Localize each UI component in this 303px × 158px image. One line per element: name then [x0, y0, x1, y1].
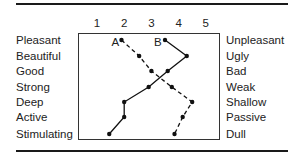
data-point — [122, 100, 126, 104]
bottom-rule — [16, 150, 288, 152]
data-point — [149, 69, 153, 73]
series-a-label: A — [111, 36, 119, 48]
profile-lines — [0, 0, 303, 158]
data-point — [166, 69, 170, 73]
data-point — [180, 115, 184, 119]
data-point — [190, 100, 194, 104]
data-point — [107, 132, 111, 136]
data-point — [170, 85, 174, 89]
series-b-label: B — [154, 36, 162, 48]
data-point — [119, 38, 123, 42]
data-point — [163, 38, 167, 42]
data-point — [185, 54, 189, 58]
data-point — [137, 54, 141, 58]
series-a-line — [121, 40, 192, 134]
data-point — [146, 85, 150, 89]
data-point — [122, 115, 126, 119]
data-point — [172, 132, 176, 136]
